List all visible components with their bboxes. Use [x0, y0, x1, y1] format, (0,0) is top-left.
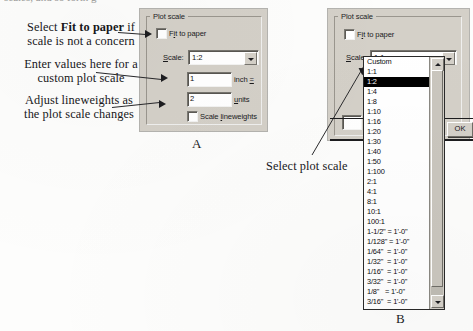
- scale-dropdown-option[interactable]: 1:2: [364, 77, 430, 87]
- figure-page: scales, and so forth g Select Fit to pap…: [0, 0, 473, 331]
- scale-dropdown-option[interactable]: Custom: [364, 57, 430, 67]
- annotation-lineweights-line1: Adjust lineweights as: [25, 93, 133, 107]
- scale-dropdown-option[interactable]: 1:100: [364, 167, 430, 177]
- scale-dropdown-option[interactable]: 1:20: [364, 127, 430, 137]
- panel-a-scale-label: Scale:: [163, 53, 184, 62]
- panel-a-dialog: Plot scale Fit to paper Scale: 1:2 1 inc…: [140, 9, 267, 131]
- scale-dropdown-option[interactable]: 10:1: [364, 207, 430, 217]
- annotation-select-plot-scale-text: Select plot scale: [266, 159, 348, 173]
- chevron-down-icon: [435, 301, 441, 304]
- panel-a-scale-combo[interactable]: 1:2: [188, 50, 259, 65]
- scale-dropdown-option[interactable]: 1:1: [364, 67, 430, 77]
- scale-dropdown-option[interactable]: 4:1: [364, 187, 430, 197]
- panel-a-scale-value: 1:2: [192, 52, 203, 63]
- scrollbar-thumb[interactable]: [431, 70, 443, 287]
- scale-dropdown-option[interactable]: 1/16" = 1'-0": [364, 267, 430, 277]
- annotation-lineweights-line2: the plot scale changes: [24, 107, 134, 121]
- chevron-down-icon: [446, 58, 452, 61]
- scale-dropdown-option[interactable]: 1:16: [364, 117, 430, 127]
- annotation-fit-bold: Fit to paper: [61, 20, 124, 34]
- scale-dropdown-option[interactable]: 1:30: [364, 137, 430, 147]
- panel-a-units-input[interactable]: 2: [187, 92, 232, 107]
- cut-off-text: scales, and so forth g: [4, 0, 97, 3]
- scale-dropdown-option[interactable]: 3/16" = 1'-0": [364, 297, 430, 307]
- annotation-fit-line2: scale is not a concern: [27, 34, 134, 48]
- panel-a-fit-to-paper-label: Fit to paper: [169, 29, 206, 38]
- scale-dropdown-option[interactable]: 1:40: [364, 147, 430, 157]
- scale-dropdown-option[interactable]: 1/4" = 1'-0": [364, 307, 430, 309]
- panel-b-fit-to-paper-label: Fit to paper: [357, 30, 394, 39]
- panel-a-scale-lineweights-label: Scale lineweights: [200, 112, 257, 121]
- ok-button[interactable]: OK: [447, 122, 473, 137]
- leader-arrow-fit-to-paper: [145, 30, 152, 38]
- scale-dropdown-option[interactable]: 1/64" = 1'-0": [364, 247, 430, 257]
- panel-a-units-label: units: [234, 95, 250, 104]
- scale-dropdown-option[interactable]: 1/8" = 1'-0": [364, 287, 430, 297]
- panel-a-inch-input[interactable]: 1: [187, 72, 232, 87]
- scale-dropdown-scrollbar[interactable]: [429, 57, 444, 309]
- panel-b-fit-to-paper-checkbox[interactable]: [344, 29, 355, 40]
- panel-a-fit-to-paper-checkbox[interactable]: [156, 28, 167, 39]
- scale-dropdown-option[interactable]: 3/32" = 1'-0": [364, 277, 430, 287]
- scale-dropdown-option[interactable]: 1:10: [364, 107, 430, 117]
- plate-label-b: B: [396, 311, 405, 327]
- annotation-fit-part1: Select: [27, 20, 61, 34]
- scale-dropdown-option[interactable]: 1:4: [364, 87, 430, 97]
- scale-dropdown-list[interactable]: Custom1:11:21:41:81:101:161:201:301:401:…: [363, 56, 445, 310]
- scrollbar-down-arrow[interactable]: [431, 295, 444, 308]
- scale-dropdown-option[interactable]: 100:1: [364, 217, 430, 227]
- annotation-custom-scale: Enter values here for a custom plot scal…: [6, 57, 156, 85]
- plate-label-a: A: [192, 136, 202, 152]
- panel-b-group-title: Plot scale: [338, 12, 376, 21]
- scale-dropdown-option[interactable]: 1:8: [364, 97, 430, 107]
- scale-dropdown-option[interactable]: 8:1: [364, 197, 430, 207]
- scale-dropdown-option[interactable]: 1:50: [364, 157, 430, 167]
- annotation-select-plot-scale: Select plot scale: [266, 159, 370, 173]
- panel-a-group-title: Plot scale: [150, 12, 188, 21]
- chevron-up-icon: [435, 63, 441, 66]
- annotation-lineweights: Adjust lineweights as the plot scale cha…: [2, 93, 156, 121]
- annotation-custom-line1: Enter values here for a: [24, 57, 138, 71]
- scale-dropdown-option[interactable]: 1/32" = 1'-0": [364, 257, 430, 267]
- scale-dropdown-options[interactable]: Custom1:11:21:41:81:101:161:201:301:401:…: [364, 57, 430, 309]
- panel-a-scale-lineweights-checkbox[interactable]: [187, 111, 198, 122]
- scale-dropdown-option[interactable]: 1-1/2" = 1'-0": [364, 227, 430, 237]
- annotation-fit-to-paper: Select Fit to paper if scale is not a co…: [6, 20, 156, 48]
- cut-off-text-line: scales, and so forth g: [4, 0, 134, 6]
- leader-arrow-lineweights: [159, 100, 166, 108]
- scale-dropdown-option[interactable]: 2:1: [364, 177, 430, 187]
- scale-dropdown-option[interactable]: 1/128" = 1'-0": [364, 237, 430, 247]
- leader-arrow-custom-scale: [161, 74, 168, 82]
